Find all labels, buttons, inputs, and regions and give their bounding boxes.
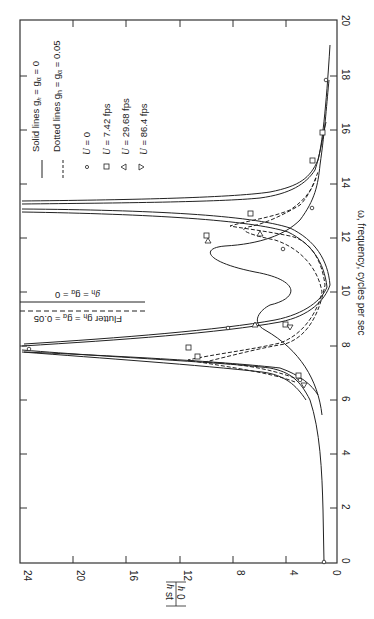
marker-square — [186, 345, 191, 350]
tick-20: 20 — [75, 570, 86, 582]
marker-circle — [226, 326, 230, 330]
square-marker-icon — [104, 164, 109, 169]
marker-triangle — [205, 238, 211, 243]
marker-circle — [281, 247, 285, 251]
svg-text:U = 0: U = 0 — [81, 132, 92, 155]
marker-square — [248, 211, 253, 216]
svg-text:0: 0 — [175, 594, 186, 600]
curve-u0-lower — [22, 350, 324, 562]
tick-f6: 6 — [340, 396, 351, 402]
svg-text:U = 7.42 fps: U = 7.42 fps — [101, 103, 112, 155]
tick-24: 24 — [22, 570, 33, 582]
tick-f0: 0 — [340, 558, 351, 564]
svg-text:Dotted lines gh = gα = 0.05: Dotted lines gh = gα = 0.05 — [51, 41, 63, 153]
svg-text:U = 86.4 fps: U = 86.4 fps — [138, 103, 149, 155]
tick-f8: 8 — [340, 342, 351, 348]
frequency-axis-title: ω, frequency, cycles per sec — [356, 210, 367, 335]
amplitude-tick-labels: 24 20 16 12 8 4 0 — [22, 570, 342, 582]
triangle-down-marker-icon — [139, 164, 144, 170]
curve-u0-upper-out — [22, 45, 330, 201]
legend-u3: U = 86.4 fps — [138, 103, 149, 170]
legend: Solid lines gh = gα = 0 Dotted lines gh … — [30, 41, 149, 179]
tick-f14: 14 — [340, 177, 351, 189]
tick-f2: 2 — [340, 504, 351, 510]
curve-damped-u0 — [205, 178, 325, 380]
marker-triangle-down — [287, 325, 293, 330]
legend-solid: Solid lines gh = gα = 0 — [30, 61, 43, 178]
tick-f16: 16 — [340, 123, 351, 135]
marker-circle — [310, 206, 314, 210]
damped-curves — [188, 172, 325, 382]
tick-12: 12 — [182, 570, 193, 582]
marker-triangle — [257, 231, 263, 236]
tick-f4: 4 — [340, 450, 351, 456]
svg-text:U = 29.68 fps: U = 29.68 fps — [120, 98, 131, 155]
marker-square — [310, 158, 315, 163]
curve-u864 — [210, 80, 329, 415]
marker-circle — [27, 347, 31, 351]
curve-u742-lower — [24, 352, 318, 395]
marker-circle — [322, 560, 326, 564]
svg-text:h: h — [176, 586, 187, 591]
tick-8: 8 — [235, 570, 246, 576]
frequency-response-chart: 24 20 16 12 8 4 0 0 2 4 6 8 10 12 — [0, 0, 374, 619]
svg-text:st: st — [164, 592, 175, 600]
svg-text:h: h — [165, 584, 176, 589]
legend-u0: U = 0 — [81, 132, 92, 169]
svg-text:Solid lines gh = gα = 0: Solid lines gh = gα = 0 — [30, 61, 43, 152]
tick-f12: 12 — [340, 231, 351, 243]
flutter-annotation: gh = gα = 0 Flutter gh = gα = 0.05 — [20, 289, 145, 325]
curves — [22, 45, 330, 562]
marker-square — [195, 354, 200, 359]
marker-circle — [324, 78, 328, 82]
marker-square — [296, 373, 301, 378]
circle-marker-icon — [85, 165, 88, 168]
curve-damped-u742 — [188, 172, 322, 382]
marker-square — [320, 130, 325, 135]
svg-text:gh = gα = 0: gh = gα = 0 — [55, 289, 100, 301]
svg-text:Flutter gh = gα = 0.05: Flutter gh = gα = 0.05 — [34, 313, 122, 325]
marker-square — [204, 233, 209, 238]
tick-0: 0 — [331, 570, 342, 576]
curve-u742-upper-out — [22, 122, 326, 204]
frequency-tick-labels: 0 2 4 6 8 10 12 14 16 18 20 — [340, 15, 351, 564]
legend-dashed: Dotted lines gh = gα = 0.05 — [51, 41, 63, 179]
tick-f18: 18 — [340, 69, 351, 81]
tick-f20: 20 — [340, 15, 351, 27]
amplitude-axis-title: h 0 h st — [164, 582, 187, 606]
tick-f10: 10 — [340, 285, 351, 297]
marker-square — [283, 322, 288, 327]
amplitude-axis — [73, 20, 286, 563]
tick-4: 4 — [288, 570, 299, 576]
marker-circle — [298, 378, 302, 382]
tick-16: 16 — [128, 570, 139, 582]
legend-u2: U = 29.68 fps — [120, 98, 131, 170]
legend-u1: U = 7.42 fps — [101, 103, 112, 169]
triangle-up-marker-icon — [121, 164, 126, 170]
